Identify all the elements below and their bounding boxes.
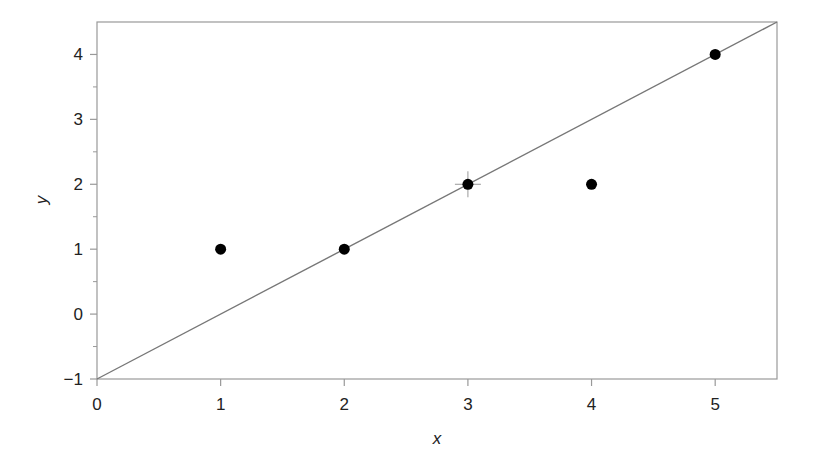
x-tick-label: 0 (92, 395, 101, 414)
x-tick-label: 1 (216, 395, 225, 414)
x-tick-label: 2 (340, 395, 349, 414)
data-point (586, 179, 597, 190)
fitted-line (97, 22, 777, 379)
y-axis-label: y (32, 194, 51, 205)
data-points (215, 49, 721, 255)
x-tick-label: 3 (463, 395, 472, 414)
y-tick-label: 2 (74, 175, 83, 194)
y-tick-label: −1 (64, 370, 83, 389)
scatter-chart: 012345 −101234 x y (0, 0, 814, 464)
data-point (462, 179, 473, 190)
data-point (215, 244, 226, 255)
y-axis-ticks: −101234 (64, 45, 97, 389)
y-tick-label: 3 (74, 110, 83, 129)
data-point (710, 49, 721, 60)
regression-line (97, 22, 777, 379)
y-tick-label: 1 (74, 240, 83, 259)
y-tick-label: 4 (74, 45, 83, 64)
data-point (339, 244, 350, 255)
x-axis-label: x (432, 429, 442, 448)
x-axis-ticks: 012345 (92, 379, 720, 414)
x-tick-label: 5 (710, 395, 719, 414)
y-tick-label: 0 (74, 305, 83, 324)
x-tick-label: 4 (587, 395, 596, 414)
